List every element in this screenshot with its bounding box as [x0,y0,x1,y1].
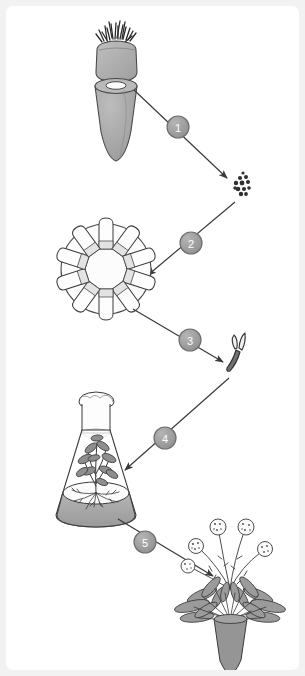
root-body [95,86,137,161]
step-badge-label: 5 [142,537,148,549]
figure-panel: 1 2 3 4 5 [6,6,299,670]
culture-tube [99,218,113,249]
micropropagation-diagram: 1 2 3 4 5 [6,6,299,670]
step-badge-5[interactable]: 5 [134,531,156,553]
carrot-crown [96,21,137,82]
crown-body [96,41,137,82]
embryo-cotyledon-left [232,335,237,349]
petiole-stubs-icon [96,21,136,42]
cell-dots-icon [233,171,251,196]
embryo-cotyledon-right [239,333,245,350]
culture-wheel [55,218,156,320]
umbel-stalks [192,532,260,589]
culture-tube [99,289,113,320]
umbel-head [189,539,204,554]
flask-plantlet [56,392,136,527]
taproot-shoulder [214,615,247,624]
umbel-head [238,519,254,535]
figure-root: 1 2 3 4 5 [0,0,305,676]
step-badge-4[interactable]: 4 [154,427,176,449]
step-badge-3[interactable]: 3 [179,329,201,351]
step-badge-1[interactable]: 1 [167,116,189,138]
step-badge-2[interactable]: 2 [180,232,202,254]
step-badge-label: 4 [162,433,168,445]
carrot-root-explant-source [95,79,137,162]
arrow-step-4 [125,378,229,470]
step-badge-label: 3 [187,335,193,347]
arrow-step-3 [133,309,223,362]
step-badge-label: 2 [188,238,194,250]
umbel-head [210,519,226,535]
cell-cluster [233,171,251,196]
mature-taproot [214,619,247,670]
embryo-hypocotyl [227,350,240,371]
umbel-head [258,542,273,557]
umbel-head [181,559,195,573]
umbel-heads [181,519,273,573]
mature-carrot-plant [173,519,286,670]
cambium-ring-icon [106,82,126,90]
step-badges: 1 2 3 4 5 [134,116,202,553]
step-badge-label: 1 [175,122,181,134]
somatic-embryo [227,333,245,371]
